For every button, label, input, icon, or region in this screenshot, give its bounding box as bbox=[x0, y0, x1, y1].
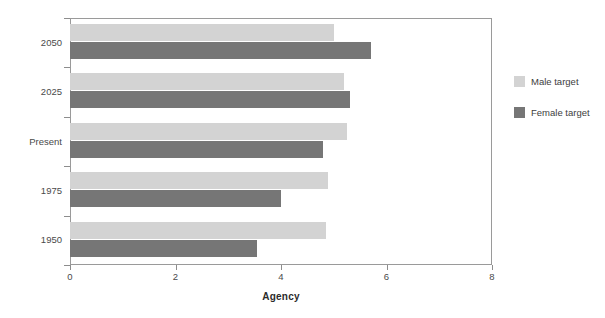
x-axis-title: Agency bbox=[70, 291, 492, 302]
legend-item-male[interactable]: Male target bbox=[514, 76, 602, 87]
bar-group bbox=[70, 18, 492, 67]
x-axis-tick bbox=[281, 265, 282, 270]
chart-legend: Male target Female target bbox=[514, 76, 602, 138]
bar-male[interactable] bbox=[70, 123, 347, 140]
bar-male[interactable] bbox=[70, 24, 334, 41]
y-axis-label-2025: 2025 bbox=[2, 86, 62, 97]
bar-male[interactable] bbox=[70, 73, 344, 90]
bars-container bbox=[70, 18, 492, 265]
legend-label-female: Female target bbox=[531, 107, 590, 118]
x-axis-tick bbox=[492, 265, 493, 270]
bar-female[interactable] bbox=[70, 91, 350, 108]
x-axis-tick-label: 8 bbox=[472, 271, 512, 282]
y-axis-label-1950: 1950 bbox=[2, 234, 62, 245]
bar-group bbox=[70, 117, 492, 166]
chart-figure: 20502025Present19751950 02468 Agency Mal… bbox=[0, 0, 605, 318]
x-axis-tick bbox=[387, 265, 388, 270]
bar-female[interactable] bbox=[70, 190, 281, 207]
bar-female[interactable] bbox=[70, 42, 371, 59]
legend-item-female[interactable]: Female target bbox=[514, 107, 602, 118]
x-axis-tick-label: 6 bbox=[367, 271, 407, 282]
bar-group bbox=[70, 166, 492, 215]
x-axis-tick-label: 0 bbox=[50, 271, 90, 282]
bar-group bbox=[70, 216, 492, 265]
y-axis-label-1975: 1975 bbox=[2, 185, 62, 196]
bar-male[interactable] bbox=[70, 222, 326, 239]
y-axis-label-2050: 2050 bbox=[2, 37, 62, 48]
x-axis-tick bbox=[70, 265, 71, 270]
y-axis-label-present: Present bbox=[2, 136, 62, 147]
bar-female[interactable] bbox=[70, 240, 257, 257]
bar-female[interactable] bbox=[70, 141, 323, 158]
bar-group bbox=[70, 67, 492, 116]
x-axis-tick bbox=[176, 265, 177, 270]
x-axis-tick-label: 2 bbox=[156, 271, 196, 282]
legend-swatch-female-icon bbox=[514, 107, 525, 118]
bar-male[interactable] bbox=[70, 172, 328, 189]
legend-swatch-male-icon bbox=[514, 76, 525, 87]
legend-label-male: Male target bbox=[531, 76, 579, 87]
x-axis-tick-label: 4 bbox=[261, 271, 301, 282]
